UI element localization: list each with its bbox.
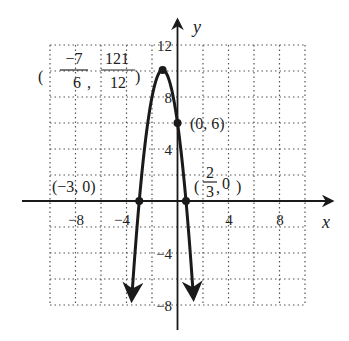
svg-text:,: , xyxy=(87,74,91,91)
vertex-point xyxy=(159,66,167,74)
svg-text:): ) xyxy=(236,178,241,196)
vertex-label: ( −7 6 , 121 12 ) xyxy=(38,50,140,91)
left-root-label: (−3, 0) xyxy=(52,178,96,196)
x-tick-label: 8 xyxy=(276,212,284,228)
y-tick-label: 12 xyxy=(157,38,172,54)
svg-text:(: ( xyxy=(194,178,199,196)
y-intercept-label: (0, 6) xyxy=(190,115,225,133)
right-root-label: ( 2 3 , 0 ) xyxy=(194,164,241,200)
y-tick-label: −4 xyxy=(156,246,172,262)
svg-text:0: 0 xyxy=(222,175,230,192)
svg-text:): ) xyxy=(135,68,140,86)
svg-text:3: 3 xyxy=(206,183,214,200)
svg-text:2: 2 xyxy=(206,164,214,181)
x-tick-label: 4 xyxy=(225,212,233,228)
parabola-chart: x y −8 −4 4 8 12 8 4 −4 −8 ( −7 6 , 121 … xyxy=(0,0,349,341)
svg-text:121: 121 xyxy=(105,50,129,67)
parabola-curve xyxy=(132,70,194,299)
y-tick-label: 4 xyxy=(165,142,173,158)
y-axis-label: y xyxy=(191,17,201,37)
right-root-point xyxy=(182,197,190,205)
svg-text:12: 12 xyxy=(110,74,126,91)
svg-text:,: , xyxy=(216,179,220,196)
x-axis-label: x xyxy=(321,212,330,232)
x-tick-label: −8 xyxy=(68,212,84,228)
svg-text:6: 6 xyxy=(73,74,81,91)
y-intercept-point xyxy=(174,119,182,127)
left-root-point xyxy=(135,197,143,205)
y-tick-label: −8 xyxy=(156,298,172,314)
svg-text:−7: −7 xyxy=(65,50,82,67)
svg-text:(: ( xyxy=(38,68,43,86)
x-tick-label: −4 xyxy=(114,212,130,228)
